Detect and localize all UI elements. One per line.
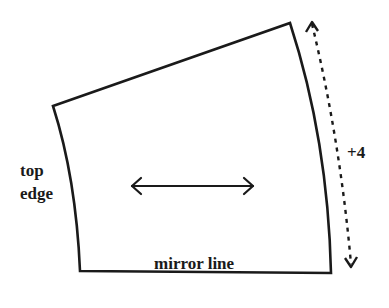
pattern-piece-outline	[53, 23, 331, 273]
grainline-arrow-icon	[132, 178, 253, 194]
pattern-diagram: top edge mirror line +4	[0, 0, 389, 308]
extension-amount-label: +4	[347, 143, 366, 162]
top-edge-label-line2: edge	[20, 184, 54, 203]
top-edge-label-line1: top	[20, 161, 44, 180]
mirror-line-label: mirror line	[154, 254, 235, 273]
